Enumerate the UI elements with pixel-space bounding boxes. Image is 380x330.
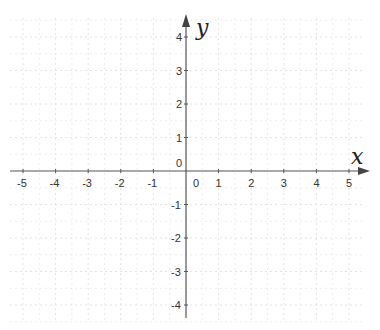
y-tick-label: -1 [171, 199, 181, 211]
y-tick-label: 4 [176, 31, 182, 43]
y-tick-label: 3 [176, 65, 182, 77]
x-tick-label: 5 [346, 177, 352, 189]
y-tick-label: 2 [176, 98, 182, 110]
y-tick-label: -4 [171, 299, 181, 311]
y-tick-label: 1 [176, 132, 182, 144]
y-axis-label: y [195, 15, 209, 40]
x-tick-label: -3 [82, 177, 92, 189]
x-tick-label: -4 [50, 177, 60, 189]
x-tick-label: -5 [17, 177, 27, 189]
grid-lines [10, 18, 365, 322]
x-tick-label: 3 [281, 177, 287, 189]
x-axis-label: x [351, 144, 364, 169]
x-tick-label: 0 [193, 177, 199, 189]
x-tick-label: 1 [216, 177, 222, 189]
y-tick-label: -3 [171, 266, 181, 278]
x-tick-labels: -5-4-3-2-1012345 [17, 177, 352, 189]
coordinate-plane: -5-4-3-2-1012345 43210-1-2-3-4 x y [0, 0, 380, 330]
x-tick-label: -1 [147, 177, 157, 189]
x-tick-label: 2 [248, 177, 254, 189]
y-axis-arrowhead-icon [182, 14, 190, 27]
y-tick-label: -2 [171, 232, 181, 244]
y-tick-label: 0 [176, 157, 182, 169]
x-tick-label: -2 [115, 177, 125, 189]
x-tick-label: 4 [313, 177, 319, 189]
